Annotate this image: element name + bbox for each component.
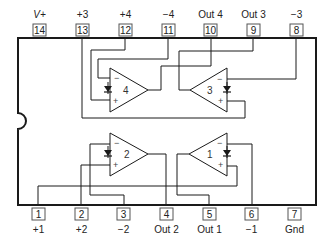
diagram-canvas: 14 V+ 13 +3 12 +4 11 −4 10 Out 4 9 Out 3 xyxy=(0,0,330,242)
wire-pin11 xyxy=(98,38,168,78)
pin-number: 11 xyxy=(163,25,174,36)
pin-label: −2 xyxy=(118,224,130,235)
top-pins: 14 V+ 13 +3 12 +4 11 −4 10 Out 4 9 Out 3 xyxy=(33,9,303,36)
pin-3: 3 −2 xyxy=(117,208,130,235)
pin-7: 7 Gnd xyxy=(285,208,304,235)
pin-number: 6 xyxy=(249,209,255,220)
pin-number: 4 xyxy=(164,209,170,220)
opamp-4: − + 4 xyxy=(104,68,148,112)
pin-number: 13 xyxy=(77,25,89,36)
minus-sign: − xyxy=(217,138,222,148)
pin-label: −4 xyxy=(163,9,175,20)
pin-number: 7 xyxy=(292,209,298,220)
pin-13: 13 +3 xyxy=(76,9,89,36)
plus-sign: + xyxy=(113,96,118,106)
pin-number: 14 xyxy=(34,25,46,36)
minus-sign: − xyxy=(217,74,222,84)
opamp-2: − + 2 xyxy=(104,133,148,176)
pin-number: 9 xyxy=(251,25,257,36)
pin-label: +4 xyxy=(120,9,132,20)
opamp-1: − + 1 xyxy=(189,133,231,176)
pin-label: Out 1 xyxy=(197,224,222,235)
pin-11: 11 −4 xyxy=(162,9,175,36)
wire-pin6 xyxy=(227,144,252,205)
pin-label: Gnd xyxy=(285,224,304,235)
pin-number: 8 xyxy=(294,25,300,36)
pin-8: 8 −3 xyxy=(290,9,303,36)
pin-12: 12 +4 xyxy=(119,9,132,36)
pin-number: 3 xyxy=(121,209,127,220)
pin-label: Out 3 xyxy=(241,9,266,20)
plus-sign: + xyxy=(218,96,223,106)
wiring xyxy=(38,38,296,205)
pin-label: −3 xyxy=(291,9,303,20)
opamp-number: 2 xyxy=(124,149,130,160)
pin-4: 4 Out 2 xyxy=(154,208,179,235)
pin-label: +2 xyxy=(76,224,88,235)
pin-label: −1 xyxy=(246,224,258,235)
pin-1: 1 +1 xyxy=(32,208,45,235)
pin-number: 10 xyxy=(205,25,217,36)
pin-number: 12 xyxy=(120,25,132,36)
pin-label: Out 2 xyxy=(154,224,179,235)
opamp-number: 1 xyxy=(207,149,213,160)
pin-2: 2 +2 xyxy=(75,208,88,235)
plus-sign: + xyxy=(218,160,223,170)
pin-6: 6 −1 xyxy=(245,208,258,235)
minus-sign: − xyxy=(114,73,119,83)
wire-pin8 xyxy=(227,38,296,79)
pin-14: 14 V+ xyxy=(33,9,46,36)
plus-sign: + xyxy=(113,160,118,170)
opamp-number: 3 xyxy=(207,85,213,96)
wire-pin1 xyxy=(38,166,237,205)
opamp-3: − + 3 xyxy=(190,68,231,112)
wire-pin4 xyxy=(148,154,166,205)
pin-label: Out 4 xyxy=(198,9,223,20)
pin-number: 2 xyxy=(79,209,85,220)
pin-5: 5 Out 1 xyxy=(197,208,222,235)
pin-label: +1 xyxy=(33,224,45,235)
opamp-number: 4 xyxy=(123,85,129,96)
wire-pin2 xyxy=(81,165,110,205)
pin-10: 10 Out 4 xyxy=(198,9,223,36)
pin-number: 1 xyxy=(36,209,42,220)
pin-9: 9 Out 3 xyxy=(241,9,266,36)
bottom-pins: 1 +1 2 +2 3 −2 4 Out 2 5 Out 1 6 −1 xyxy=(32,208,304,235)
pin-number: 5 xyxy=(207,209,213,220)
pin-label: +3 xyxy=(77,9,89,20)
ic-pinout-diagram: 14 V+ 13 +3 12 +4 11 −4 10 Out 4 9 Out 3 xyxy=(0,0,330,242)
chip-body xyxy=(18,38,316,205)
minus-sign: − xyxy=(114,138,119,148)
pin-label: V+ xyxy=(33,9,46,20)
